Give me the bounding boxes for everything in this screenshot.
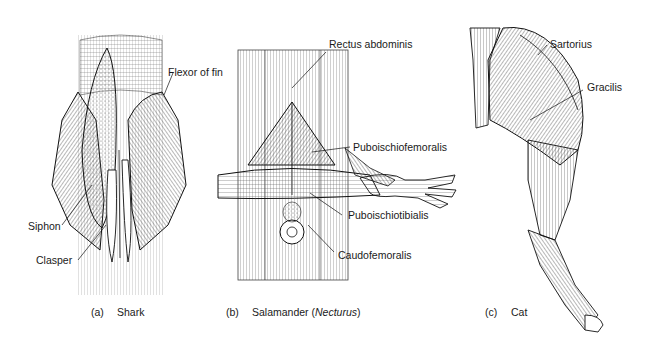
caption-text-a: Shark bbox=[117, 306, 144, 318]
caption-shark: (a)Shark bbox=[91, 306, 144, 318]
label-rectus-abdominis: Rectus abdominis bbox=[329, 38, 412, 50]
caption-tag-c: (c) bbox=[485, 306, 511, 318]
label-puboischiotibialis: Puboischiotibialis bbox=[348, 209, 429, 221]
caption-end-b: ) bbox=[357, 306, 361, 318]
caption-cat: (c)Cat bbox=[485, 306, 527, 318]
label-clasper: Clasper bbox=[36, 254, 72, 266]
label-flexor-of-fin: Flexor of fin bbox=[168, 66, 223, 78]
label-siphon: Siphon bbox=[28, 220, 61, 232]
caption-text-b: Salamander ( bbox=[252, 306, 315, 318]
label-puboischiofemoralis: Puboischiofemoralis bbox=[353, 141, 447, 153]
caption-text-c: Cat bbox=[511, 306, 527, 318]
label-gracilis: Gracilis bbox=[587, 81, 622, 93]
caption-tag-a: (a) bbox=[91, 306, 117, 318]
cat-illustration bbox=[470, 27, 603, 332]
label-caudofemoralis: Caudofemoralis bbox=[338, 249, 412, 261]
caption-tag-b: (b) bbox=[226, 306, 252, 318]
salamander-illustration bbox=[218, 50, 456, 280]
anatomy-illustrations bbox=[0, 0, 650, 346]
caption-genus-b: Necturus bbox=[315, 306, 357, 318]
caption-salamander: (b)Salamander (Necturus) bbox=[226, 306, 361, 318]
label-sartorius: Sartorius bbox=[550, 38, 592, 50]
